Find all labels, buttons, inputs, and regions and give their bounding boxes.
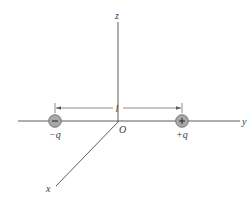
arrowhead-left-icon — [56, 106, 61, 109]
x-axis-label: x — [45, 183, 51, 194]
separation-dimension: l — [55, 103, 182, 114]
separation-label: l — [116, 103, 119, 114]
negative-charge-label: −q — [49, 129, 61, 140]
y-axis-label: y — [241, 116, 247, 127]
positive-charge: +q — [176, 115, 189, 140]
negative-charge: −q — [49, 115, 62, 140]
arrowhead-right-icon — [176, 106, 181, 109]
x-axis — [56, 122, 118, 186]
positive-charge-label: +q — [176, 129, 188, 140]
z-axis-label: z — [114, 10, 119, 21]
dipole-diagram: z y x O l −q +q — [0, 0, 252, 205]
origin-label: O — [119, 124, 126, 135]
